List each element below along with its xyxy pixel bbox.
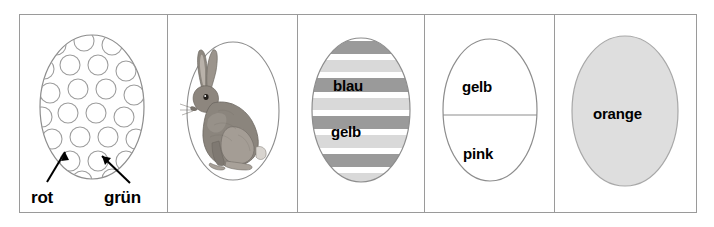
worksheet-cell-rabbit[interactable] bbox=[168, 15, 298, 212]
egg-split bbox=[425, 15, 554, 212]
egg-dotted-svg bbox=[20, 15, 168, 212]
label-orange: orange bbox=[593, 105, 642, 122]
label-pink: pink bbox=[463, 145, 493, 162]
egg-rabbit bbox=[168, 15, 297, 212]
label-rot: rot bbox=[31, 188, 53, 208]
worksheet-table: rot grün bbox=[19, 14, 697, 213]
worksheet-cell-striped[interactable]: blau gelb bbox=[298, 15, 425, 212]
label-blau: blau bbox=[333, 77, 363, 94]
egg-split-svg bbox=[425, 15, 555, 212]
worksheet-cell-solid[interactable]: orange bbox=[555, 15, 696, 212]
egg-striped-svg bbox=[298, 15, 425, 212]
worksheet-cell-dots[interactable]: rot grün bbox=[20, 15, 168, 212]
label-gelb-striped: gelb bbox=[331, 123, 361, 140]
egg-rabbit-svg bbox=[168, 15, 298, 212]
worksheet-cell-halves[interactable]: gelb pink bbox=[425, 15, 555, 212]
egg-striped bbox=[298, 15, 424, 212]
label-gruen: grün bbox=[104, 188, 141, 208]
label-gelb-half: gelb bbox=[462, 78, 492, 95]
egg-dotted bbox=[20, 15, 167, 212]
worksheet-page: rot grün bbox=[0, 0, 714, 227]
